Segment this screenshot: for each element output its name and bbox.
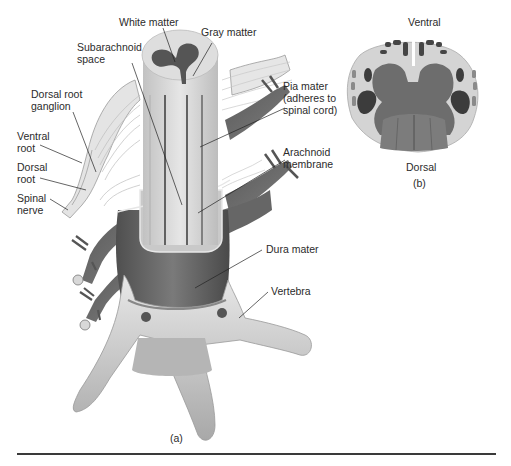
panel-a-drawing xyxy=(62,30,311,440)
label-pia-mater: Pia mater (adheres to spinal cord) xyxy=(283,80,337,116)
label-dorsal-root: Dorsal root xyxy=(17,161,47,185)
label-white-matter: White matter xyxy=(119,16,179,28)
caption-b: (b) xyxy=(413,177,426,189)
panel-b-cross-section xyxy=(347,38,478,152)
label-dorsal-root-ganglion: Dorsal root ganglion xyxy=(31,88,82,112)
label-arachnoid-membrane: Arachnoid membrane xyxy=(283,146,333,170)
label-ventral-root: Ventral root xyxy=(17,130,50,154)
label-dorsal: Dorsal xyxy=(406,161,436,173)
label-gray-matter: Gray matter xyxy=(201,26,256,38)
label-dura-mater: Dura mater xyxy=(266,243,319,255)
spinal-cord-illustration xyxy=(0,0,511,466)
bottom-rule xyxy=(17,453,496,455)
label-subarachnoid-space: Subarachnoid space xyxy=(77,41,142,65)
label-ventral: Ventral xyxy=(408,16,441,28)
label-spinal-nerve: Spinal nerve xyxy=(17,192,46,216)
label-vertebra: Vertebra xyxy=(271,285,311,297)
caption-a: (a) xyxy=(170,432,183,444)
